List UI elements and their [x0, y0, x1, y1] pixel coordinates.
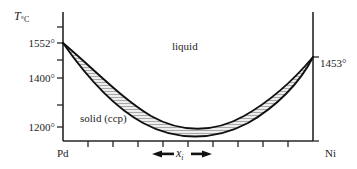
- x-axis-left-endpoint-label: Pd: [57, 148, 69, 159]
- phase-diagram-figure: T°C 1552° 1400° 1200° 1453° liquid solid…: [0, 0, 357, 169]
- composition-subscript: i: [181, 153, 183, 162]
- y-tick-label-1400: 1400°: [11, 73, 55, 84]
- y-tick-label-1200: 1200°: [11, 122, 55, 133]
- y-axis-title-symbol: T: [14, 9, 21, 23]
- right-endpoint-temp-label: 1453°: [320, 58, 346, 69]
- y-axis-title: T°C: [14, 10, 29, 24]
- right-axis-ticks: [313, 57, 319, 141]
- liquid-region-label: liquid: [172, 41, 198, 52]
- y-tick-label-1552: 1552°: [11, 38, 55, 49]
- right-arrow-icon: [202, 151, 212, 158]
- phase-diagram-svg: [0, 0, 357, 169]
- composition-axis-label: xi: [176, 147, 184, 162]
- left-arrow-icon: [152, 151, 162, 158]
- y-axis-ticks: [57, 27, 63, 127]
- left-arrow-shaft: [161, 153, 174, 156]
- solid-region-label: solid (ccp): [80, 113, 127, 124]
- y-axis-title-unit: °C: [21, 15, 30, 24]
- x-axis-right-endpoint-label: Ni: [325, 148, 336, 159]
- right-arrow-shaft: [191, 153, 203, 156]
- x-axis-ticks: [88, 141, 288, 147]
